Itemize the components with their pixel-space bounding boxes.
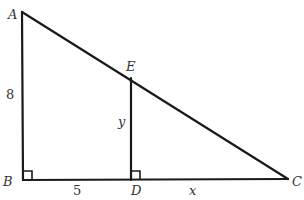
right-angle-marker-b: [23, 171, 32, 180]
segment-ab: [22, 12, 23, 180]
length-label-de: y: [117, 114, 126, 129]
vertex-label-a: A: [7, 7, 17, 22]
similar-triangles-diagram: A B C D E 8 5 y x: [0, 0, 304, 200]
length-label-dc: x: [189, 183, 197, 198]
vertex-label-d: D: [130, 183, 142, 198]
length-label-bd: 5: [73, 183, 81, 198]
vertex-label-c: C: [292, 174, 302, 189]
vertex-label-b: B: [2, 174, 13, 189]
length-label-ab: 8: [6, 87, 14, 102]
vertex-label-e: E: [125, 59, 136, 74]
segment-bc: [23, 179, 288, 180]
segment-ac: [22, 12, 288, 179]
